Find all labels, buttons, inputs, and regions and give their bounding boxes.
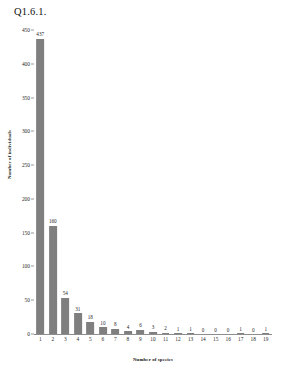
bar-value-label: 6 <box>139 322 142 328</box>
x-tick-label: 9 <box>139 336 142 342</box>
chart-figure: Q1.6.1. 050100150200250300350400450 Numb… <box>0 0 281 376</box>
y-tick-label: 350 <box>22 95 30 101</box>
bar-group: 8 <box>109 30 122 334</box>
x-tick-label: 15 <box>213 336 218 342</box>
bar <box>99 327 107 334</box>
bar <box>86 322 94 334</box>
x-tick-label: 4 <box>76 336 79 342</box>
bar-group: 10 <box>97 30 110 334</box>
bar <box>61 298 69 334</box>
x-tick-label: 17 <box>238 336 243 342</box>
plot-area: 437160543118108463211000101 <box>34 30 272 334</box>
bar-group: 0 <box>197 30 210 334</box>
x-tick-label: 18 <box>251 336 256 342</box>
bar-group: 1 <box>184 30 197 334</box>
bar-value-label: 437 <box>36 31 44 37</box>
bar-value-label: 8 <box>114 321 117 327</box>
bar <box>74 313 82 334</box>
bar-value-label: 0 <box>214 327 217 333</box>
bar-value-label: 18 <box>88 314 93 320</box>
x-tick-label: 12 <box>175 336 180 342</box>
x-tick-label: 2 <box>51 336 54 342</box>
bar-group: 0 <box>247 30 260 334</box>
bar-group: 437 <box>34 30 47 334</box>
x-tick-label: 1 <box>39 336 42 342</box>
bar-group: 31 <box>72 30 85 334</box>
y-tick-label: 0 <box>27 331 30 337</box>
x-tick-label: 14 <box>200 336 205 342</box>
x-tick-label: 11 <box>163 336 168 342</box>
bar-value-label: 1 <box>189 326 192 332</box>
bar-group: 1 <box>172 30 185 334</box>
y-axis-title: Number of individuals <box>7 110 12 200</box>
bar-value-label: 1 <box>239 326 242 332</box>
y-axis-ticks: 050100150200250300350400450 <box>0 30 34 334</box>
x-tick-label: 6 <box>102 336 105 342</box>
bar-group: 4 <box>122 30 135 334</box>
x-tick-label: 3 <box>64 336 67 342</box>
y-tick-label: 450 <box>22 27 30 33</box>
x-tick-label: 19 <box>263 336 268 342</box>
x-tick-label: 13 <box>188 336 193 342</box>
bar-group: 3 <box>147 30 160 334</box>
bar-value-label: 31 <box>75 306 80 312</box>
bar-group: 1 <box>259 30 272 334</box>
x-axis-ticks: 12345678910111213141516171819 <box>34 336 272 348</box>
bar-value-label: 1 <box>177 326 180 332</box>
bar-group: 54 <box>59 30 72 334</box>
y-tick-label: 250 <box>22 162 30 168</box>
bar-value-label: 0 <box>202 327 205 333</box>
bar-value-label: 1 <box>264 326 267 332</box>
bar-value-label: 0 <box>252 327 255 333</box>
bar <box>36 39 44 334</box>
bar-group: 0 <box>222 30 235 334</box>
x-tick-label: 10 <box>150 336 155 342</box>
bar-group: 6 <box>134 30 147 334</box>
bar-value-label: 10 <box>100 320 105 326</box>
y-tick-label: 50 <box>25 297 30 303</box>
bar <box>49 226 57 334</box>
x-axis-line <box>34 334 272 335</box>
bar-group: 0 <box>209 30 222 334</box>
bar-group: 160 <box>47 30 60 334</box>
y-tick-label: 150 <box>22 230 30 236</box>
bar-group: 2 <box>159 30 172 334</box>
y-tick-label: 200 <box>22 196 30 202</box>
bar-value-label: 3 <box>152 324 155 330</box>
bar-value-label: 160 <box>49 218 57 224</box>
bar-value-label: 0 <box>227 327 230 333</box>
bar-group: 18 <box>84 30 97 334</box>
bar-group: 1 <box>234 30 247 334</box>
x-tick-label: 16 <box>225 336 230 342</box>
bar-value-label: 4 <box>127 324 130 330</box>
x-axis-title: Number of species <box>34 357 272 362</box>
x-tick-label: 7 <box>114 336 117 342</box>
x-tick-label: 5 <box>89 336 92 342</box>
y-tick-label: 300 <box>22 128 30 134</box>
x-tick-label: 8 <box>127 336 130 342</box>
chart-title: Q1.6.1. <box>14 6 47 17</box>
y-tick-label: 100 <box>22 263 30 269</box>
bar-value-label: 2 <box>164 325 167 331</box>
y-tick-label: 400 <box>22 61 30 67</box>
bar-value-label: 54 <box>63 290 68 296</box>
